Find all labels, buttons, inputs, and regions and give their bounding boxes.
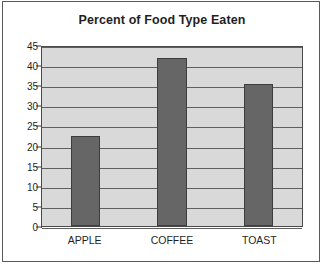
bar-apple[interactable]: [71, 136, 100, 226]
x-axis-category-labels: APPLECOFFEETOAST: [41, 234, 303, 246]
x-axis-label: TOAST: [216, 234, 303, 246]
chart-title: Percent of Food Type Eaten: [0, 13, 324, 27]
y-axis-tick-label: 10: [27, 182, 38, 193]
y-axis-tick-label: 30: [27, 101, 38, 112]
bar-coffee[interactable]: [157, 58, 186, 226]
y-axis-tick-label: 15: [27, 162, 38, 173]
chart-screenshot: Percent of Food Type Eaten 4540353025201…: [0, 0, 324, 266]
y-axis-tick-labels: 454035302520151050: [0, 46, 38, 227]
bar-toast[interactable]: [244, 84, 273, 226]
bar-slot: [215, 47, 302, 226]
bar-slot: [129, 47, 216, 226]
y-axis-tick-label: 45: [27, 41, 38, 52]
bars-layer: [42, 47, 302, 226]
y-axis-tick-label: 25: [27, 121, 38, 132]
bar-slot: [42, 47, 129, 226]
x-axis-label: COFFEE: [128, 234, 215, 246]
y-axis-tick-label: 0: [32, 222, 38, 233]
y-axis-tick-label: 5: [32, 202, 38, 213]
y-axis-tick-label: 20: [27, 142, 38, 153]
y-axis-tick-label: 35: [27, 81, 38, 92]
y-axis-tick-label: 40: [27, 61, 38, 72]
plot-area: [41, 46, 303, 227]
gridline: [42, 228, 302, 229]
x-axis-label: APPLE: [41, 234, 128, 246]
